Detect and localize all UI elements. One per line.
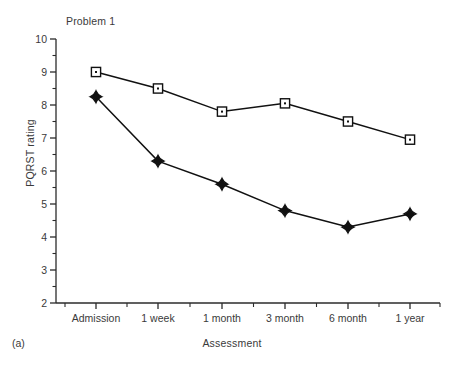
data-point-center-dot	[95, 71, 97, 73]
y-tick-label: 9	[41, 66, 47, 78]
x-tick-label: 1 month	[203, 312, 241, 324]
series-line-filled-diamond	[96, 97, 410, 227]
x-tick-label: 6 month	[329, 312, 367, 324]
y-tick-label: 4	[41, 231, 47, 243]
y-tick-label: 5	[41, 198, 47, 210]
panel-label: (a)	[12, 337, 25, 349]
series-line-open-square	[96, 72, 410, 140]
data-point-filled-diamond	[404, 208, 416, 220]
line-chart-plot: 2345678910Admission1 week1 month3 month6…	[0, 0, 464, 367]
x-tick-label: Admission	[72, 312, 121, 324]
y-tick-label: 3	[41, 264, 47, 276]
y-tick-label: 7	[41, 132, 47, 144]
y-tick-label: 10	[35, 33, 47, 45]
data-point-center-dot	[284, 102, 286, 104]
data-point-filled-diamond	[216, 178, 228, 190]
data-point-center-dot	[157, 88, 159, 90]
data-point-filled-diamond	[279, 205, 291, 217]
x-tick-label: 1 week	[141, 312, 175, 324]
data-point-center-dot	[221, 111, 223, 113]
y-tick-label: 2	[41, 297, 47, 309]
data-point-filled-diamond	[342, 221, 354, 233]
y-tick-label: 6	[41, 165, 47, 177]
x-axis-title: Assessment	[0, 337, 464, 349]
y-tick-label: 8	[41, 99, 47, 111]
data-point-center-dot	[347, 121, 349, 123]
data-point-center-dot	[409, 139, 411, 141]
x-tick-label: 3 month	[266, 312, 304, 324]
chart-series-layer	[90, 67, 416, 233]
x-tick-label: 1 year	[395, 312, 425, 324]
figure-panel: Problem 1 PQRST rating 2345678910Admissi…	[0, 0, 464, 367]
